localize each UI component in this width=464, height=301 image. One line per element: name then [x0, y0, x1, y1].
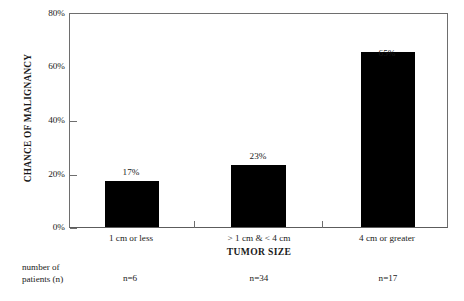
x-tick-mark-2 [322, 221, 323, 228]
plot-area [69, 13, 448, 228]
y-tick-mark-20 [70, 228, 77, 229]
x-tick-mark-1 [194, 221, 195, 228]
y-tick-label-40: 40% [25, 116, 65, 125]
x-category-label-2: > 1 cm & < 4 cm [228, 233, 291, 243]
bar-1-cm-or-less [105, 181, 159, 227]
bar-value-label-2: 23% [250, 151, 267, 161]
bar-4-cm-or-greater [361, 52, 415, 227]
y-tick-label-80: 80% [25, 9, 65, 18]
x-category-label-1: 1 cm or less [109, 233, 153, 243]
y-tick-mark-60 [70, 121, 77, 122]
patient-count-2: n=34 [250, 273, 269, 283]
patient-count-note: number of patients (n) [22, 261, 63, 286]
bar-gt-1-lt-4-cm [231, 165, 286, 227]
chart-screenshot: CHANCE OF MALIGNANCY 80% 60% 40% 20% 0% … [0, 0, 464, 301]
bar-value-label-3: 65% [379, 48, 396, 58]
y-tick-label-0: 0% [25, 223, 65, 232]
y-tick-label-60: 60% [25, 62, 65, 71]
x-category-label-3: 4 cm or greater [359, 233, 415, 243]
patient-count-note-line1: number of [22, 261, 63, 273]
patient-count-3: n=17 [379, 273, 398, 283]
bar-value-label-1: 17% [123, 167, 140, 177]
patient-count-note-line2: patients (n) [22, 273, 63, 285]
patient-count-1: n=6 [123, 273, 137, 283]
y-tick-mark-40 [70, 175, 77, 176]
x-axis-title: TUMOR SIZE [227, 246, 292, 257]
y-tick-label-20: 20% [25, 170, 65, 179]
